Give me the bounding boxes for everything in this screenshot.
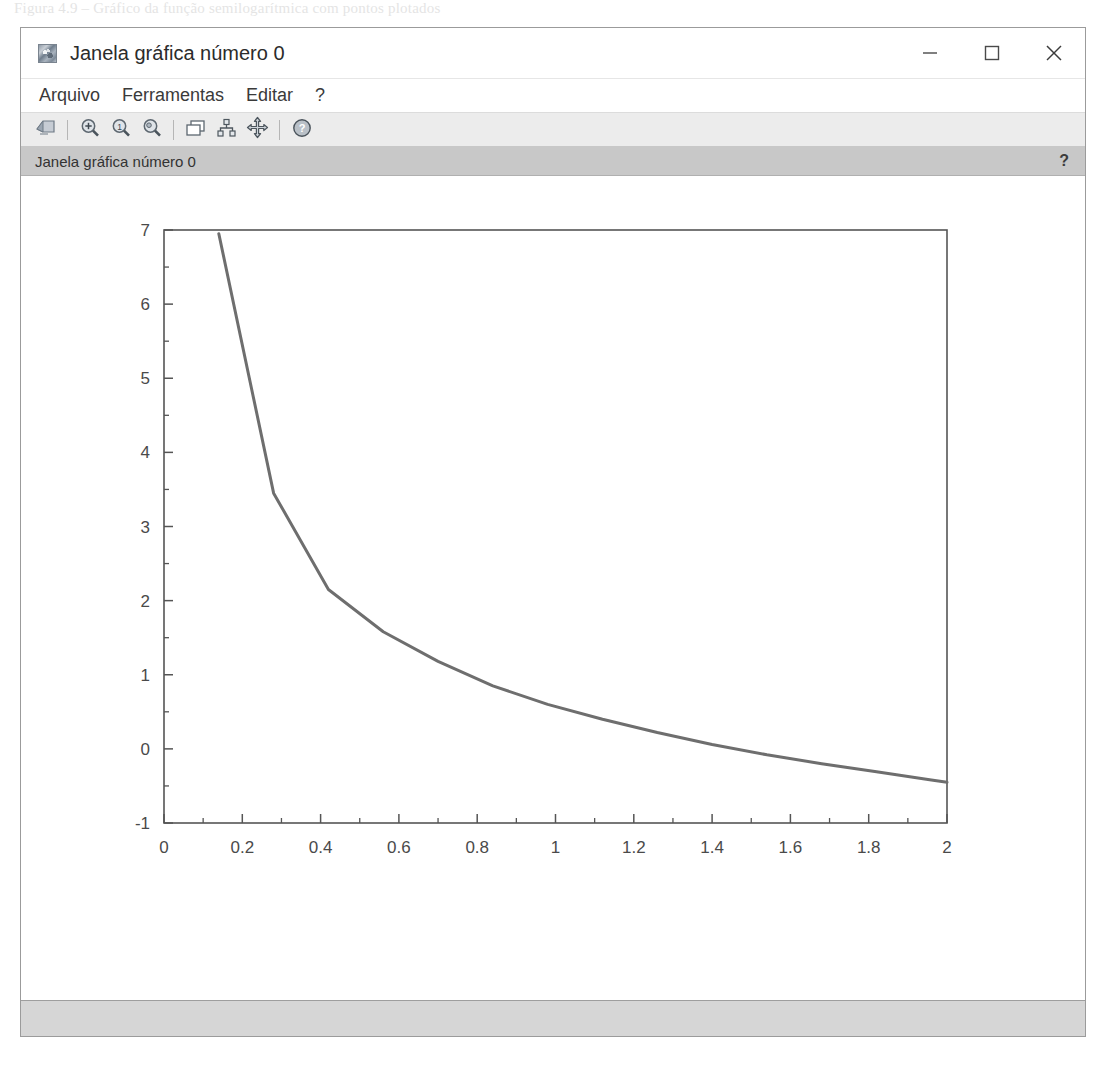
magnifier-plus-icon: [79, 117, 101, 143]
menu-ferramentas[interactable]: Ferramentas: [120, 84, 226, 107]
magnifier-minus-icon: [141, 117, 163, 143]
toolbar-separator: [67, 120, 68, 140]
svg-text:1: 1: [117, 121, 122, 131]
y-tick-label: 7: [141, 221, 150, 240]
window-title: Janela gráfica número 0: [70, 42, 285, 65]
plot-figure: 00.20.40.60.811.21.41.61.82-101234567: [21, 176, 1085, 996]
x-tick-label: 1.8: [857, 838, 881, 857]
toolbar: 1: [21, 112, 1085, 147]
title-bar: Janela gráfica número 0: [21, 28, 1085, 79]
plot-frame: [164, 230, 947, 823]
windows-button[interactable]: [180, 115, 211, 144]
magnifier-one-icon: 1: [110, 117, 132, 143]
y-tick-label: 2: [141, 592, 150, 611]
graph-hierarchy-icon: [216, 117, 238, 143]
y-tick-label: 6: [141, 295, 150, 314]
move-arrows-icon: [246, 116, 269, 143]
x-tick-label: 1.4: [700, 838, 724, 857]
docked-tab-strip[interactable]: Janela gráfica número 0 ?: [21, 147, 1085, 176]
close-button[interactable]: [1023, 28, 1085, 78]
y-tick-label: 4: [141, 443, 150, 462]
x-tick-label: 0.4: [309, 838, 333, 857]
x-tick-label: 1.2: [622, 838, 646, 857]
zoom-original-button[interactable]: 1: [105, 115, 136, 144]
series-line: [219, 234, 947, 783]
cascade-windows-icon: [184, 117, 208, 143]
plot-canvas[interactable]: 00.20.40.60.811.21.41.61.82-101234567: [21, 176, 1085, 1000]
zoom-out-button[interactable]: [136, 115, 167, 144]
tab-help-icon[interactable]: ?: [1057, 152, 1071, 170]
y-tick-label: 5: [141, 369, 150, 388]
help-button[interactable]: ?: [286, 115, 317, 144]
y-tick-label: 0: [141, 740, 150, 759]
menu-editar[interactable]: Editar: [244, 84, 295, 107]
y-tick-label: 1: [141, 666, 150, 685]
y-tick-label: 3: [141, 518, 150, 537]
menu-arquivo[interactable]: Arquivo: [37, 84, 102, 107]
maximize-button[interactable]: [961, 28, 1023, 78]
graphic-window: Janela gráfica número 0 Arquivo Ferramen…: [20, 27, 1086, 1037]
x-tick-label: 0.6: [387, 838, 411, 857]
pan-button[interactable]: [242, 115, 273, 144]
x-tick-label: 0.2: [230, 838, 254, 857]
minimize-icon: [920, 47, 940, 59]
page-caption-bleed: Figura 4.9 – Gráfico da função semilogar…: [0, 0, 1105, 20]
zoom-in-button[interactable]: [74, 115, 105, 144]
graph-tree-button[interactable]: [211, 115, 242, 144]
status-bar: [21, 1000, 1085, 1036]
question-mark-circle-icon: ?: [291, 117, 313, 143]
x-tick-label: 1.6: [779, 838, 803, 857]
svg-text:?: ?: [298, 122, 305, 134]
close-icon: [1043, 42, 1065, 64]
menu-help[interactable]: ?: [313, 84, 327, 107]
x-tick-label: 0: [159, 838, 168, 857]
export-image-button[interactable]: [30, 115, 61, 144]
x-tick-label: 1: [551, 838, 560, 857]
x-tick-label: 2: [942, 838, 951, 857]
export-graphic-icon: [34, 117, 58, 143]
toolbar-separator: [279, 120, 280, 140]
tab-label: Janela gráfica número 0: [35, 153, 196, 170]
minimize-button[interactable]: [899, 28, 961, 78]
toolbar-separator: [173, 120, 174, 140]
y-tick-label: -1: [135, 814, 150, 833]
menu-bar: Arquivo Ferramentas Editar ?: [21, 79, 1085, 112]
maximize-icon: [983, 44, 1001, 62]
x-tick-label: 0.8: [465, 838, 489, 857]
scilab-graphic-icon: [38, 44, 57, 63]
